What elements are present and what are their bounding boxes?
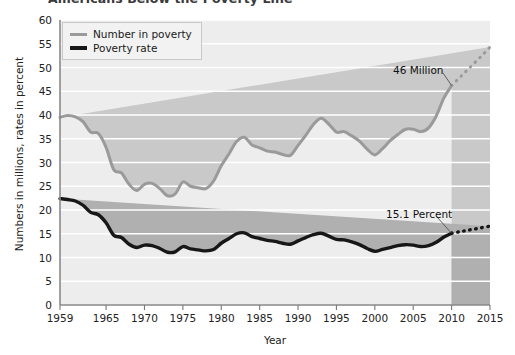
legend-label-number-in-poverty: Number in poverty [93,27,192,41]
annotation-46-million: 46 Million [393,64,444,76]
legend-item-poverty-rate: Poverty rate [70,41,192,55]
legend-swatch-black-icon [70,46,87,50]
chart-legend: Number in poverty Poverty rate [62,22,202,60]
legend-label-poverty-rate: Poverty rate [93,41,157,55]
annotation-15-1-percent: 15.1 Percent [386,208,452,220]
legend-item-number-in-poverty: Number in poverty [70,27,192,41]
legend-swatch-gray-icon [70,33,87,36]
chart-figure: Americans Below the Poverty Line Numbers… [0,0,515,355]
